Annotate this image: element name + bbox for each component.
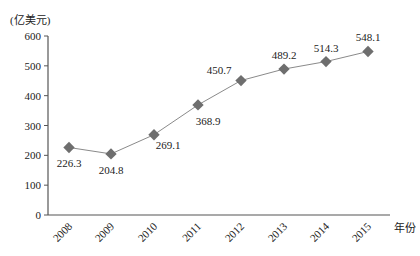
data-value-label: 368.9 <box>196 115 221 127</box>
data-value-label: 226.3 <box>57 157 82 169</box>
x-tick-label: 2010 <box>135 220 159 244</box>
data-point-marker <box>63 142 74 153</box>
data-point-marker <box>362 46 373 57</box>
y-tick-label: 600 <box>25 30 42 42</box>
data-value-label: 450.7 <box>207 64 232 76</box>
data-point-marker <box>235 75 246 86</box>
x-tick-label: 2008 <box>50 220 74 244</box>
x-tick-label: 2012 <box>222 220 246 244</box>
data-value-label: 489.2 <box>272 49 297 61</box>
data-value-label: 514.3 <box>314 42 339 54</box>
data-point-marker <box>192 99 203 110</box>
data-value-label: 269.1 <box>156 139 181 151</box>
x-tick-label: 2011 <box>180 220 204 244</box>
y-tick-label: 200 <box>25 149 42 161</box>
x-tick-label: 2015 <box>349 220 373 244</box>
y-tick-label: 400 <box>25 90 42 102</box>
x-tick-label: 2009 <box>92 220 116 244</box>
x-tick-label: 2013 <box>265 220 289 244</box>
y-tick-label: 0 <box>36 209 42 221</box>
data-value-label: 548.1 <box>356 31 381 43</box>
data-value-label: 204.8 <box>99 164 124 176</box>
data-point-marker <box>278 63 289 74</box>
y-tick-label: 100 <box>25 179 42 191</box>
y-tick-label: 500 <box>25 60 42 72</box>
data-labels: 226.3204.8269.1368.9450.7489.2514.3548.1 <box>57 31 381 175</box>
line-chart: (亿美元) 0100200300400500600 20082009201020… <box>0 0 420 256</box>
x-axis-label: 年份 <box>394 221 416 234</box>
y-axis-label: (亿美元) <box>10 14 51 27</box>
data-point-marker <box>320 56 331 67</box>
y-tick-label: 300 <box>25 120 42 132</box>
x-tick-label: 2014 <box>307 220 331 244</box>
y-axis: 0100200300400500600 <box>25 30 49 221</box>
data-point-marker <box>105 148 116 159</box>
x-axis: 20082009201020112012201320142015 <box>48 215 390 244</box>
